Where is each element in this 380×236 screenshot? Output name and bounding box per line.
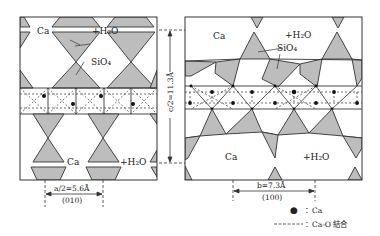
legend-ca-symbol: ● [290,205,298,215]
left-plane-label: (010) [62,196,82,205]
right-plane-label: (100) [262,193,282,202]
right-dimension-label: b=7.3Å [257,181,286,190]
right-panel [185,17,362,180]
left-sio4-label: SiO₄ [91,57,111,67]
right-ca-bottom-label: Ca [225,152,238,162]
left-dimension-label: a/2=5.6Å [54,184,90,193]
left-h2o-bottom-label: +H₂O [120,157,146,167]
legend-ca-label: ：Ca [305,206,323,215]
left-ca-top-label: Ca [37,26,50,36]
legend-bond-label: ：Ca-O 結合 [305,219,348,229]
right-ca-top-label: Ca [213,31,226,41]
left-panel [20,17,157,180]
right-sio4-label: SiO₄ [277,43,297,53]
crystal-structure-diagram: Ca +H₂O SiO₄ Ca +H₂O a/2=5.6Å (010) Ca +… [0,0,380,236]
left-h2o-top-label: +H₂O [92,26,118,36]
legend: ● ：Ca ：Ca-O 結合 [274,205,348,229]
vertical-dimension-label: c/2=11.3Å [166,72,175,112]
left-ca-bottom-label: Ca [67,157,80,167]
right-h2o-bottom-label: +H₂O [303,152,329,162]
right-h2o-top-label: +H₂O [285,30,311,40]
